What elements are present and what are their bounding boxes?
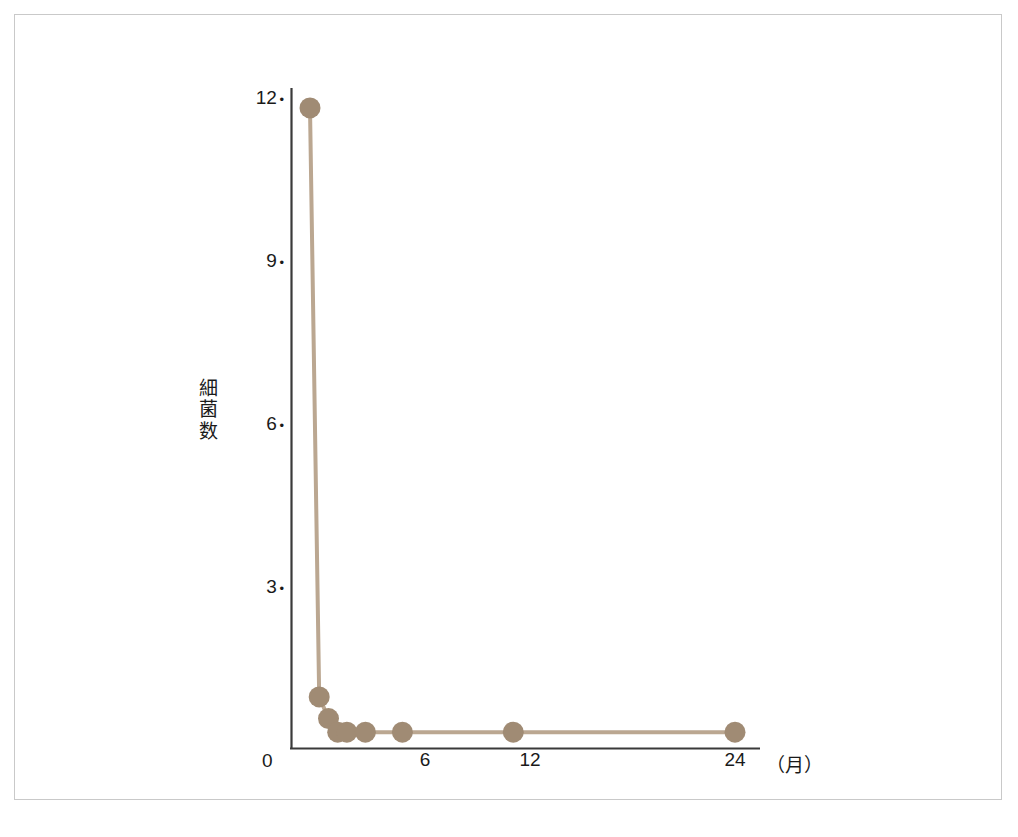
y-axis-title: 細 菌 数	[196, 378, 220, 442]
data-point	[309, 686, 330, 707]
data-point	[336, 722, 357, 743]
x-tick-label-0: 0	[262, 750, 273, 772]
x-tick-label-6: 6	[405, 750, 445, 769]
y-tick-label-9: 9 •	[240, 251, 284, 270]
data-point	[300, 97, 321, 118]
bacteria-count-line-chart	[0, 0, 1018, 837]
y-axis-title-char-3: 数	[196, 421, 220, 442]
y-axis-title-char-1: 細	[196, 378, 220, 399]
y-axis-title-char-2: 菌	[196, 399, 220, 420]
data-point	[503, 722, 524, 743]
data-point	[355, 722, 376, 743]
x-axis-unit-label: （月）	[766, 750, 823, 777]
y-tick-label-6: 6 •	[240, 414, 284, 433]
data-series-markers	[300, 97, 746, 742]
figure-screenshot: 12 • 9 • 6 • 3 • 細 菌 数 0 6 12 24 （月）	[0, 0, 1018, 837]
x-tick-label-24: 24	[715, 750, 755, 769]
data-series-line	[310, 108, 735, 732]
x-tick-label-12: 12	[510, 750, 550, 769]
data-point	[725, 722, 746, 743]
y-tick-label-3: 3 •	[240, 577, 284, 596]
data-point	[392, 722, 413, 743]
y-tick-label-12: 12 •	[240, 88, 284, 107]
